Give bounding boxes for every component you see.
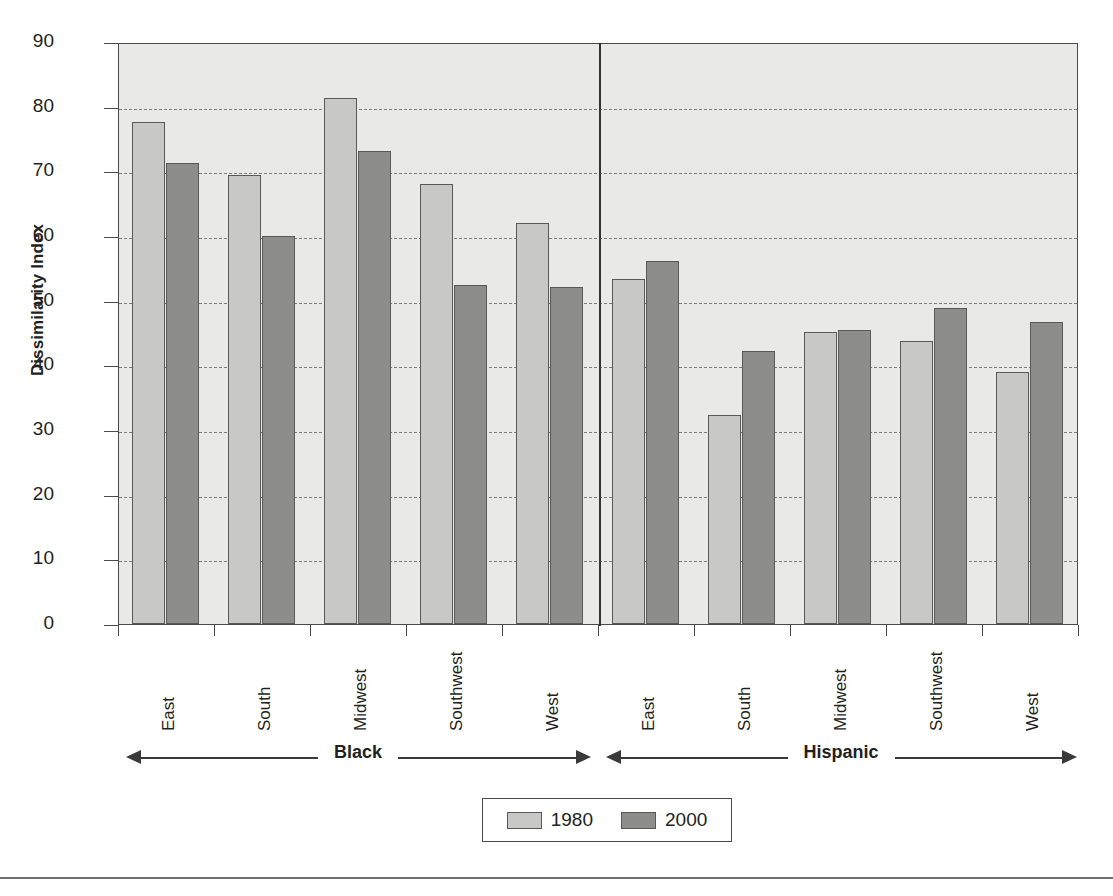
legend-item-2000[interactable]: 2000 [621,809,707,831]
y-tick-label-80: 80 [14,95,54,117]
bar-2000-South-black[interactable] [262,236,295,624]
y-tick-label-0: 0 [14,612,54,634]
arrow-right-hispanic-icon [1062,750,1077,764]
bar-1980-West-hispanic[interactable] [996,372,1029,624]
arrow-line-left-black [140,757,318,759]
bar-1980-Midwest-hispanic[interactable] [804,332,837,624]
legend-item-1980[interactable]: 1980 [507,809,593,831]
legend-label-2000: 2000 [665,809,707,831]
x-tick-mark-10 [1078,625,1079,636]
y-tick-mark-20 [104,496,118,497]
group-separator-line [599,43,601,626]
y-tick-label-90: 90 [14,30,54,52]
y-tick-mark-80 [104,108,118,109]
bar-2000-Midwest-hispanic[interactable] [838,330,871,624]
y-tick-mark-60 [104,237,118,238]
chart-legend: 1980 2000 [482,798,732,842]
x-tick-mark-8 [886,625,887,636]
y-tick-label-20: 20 [14,483,54,505]
x-tick-mark-6 [694,625,695,636]
x-label-hispanic-west: West [1023,693,1043,731]
x-label-black-southwest: Southwest [447,652,467,731]
chart-figure: Dissimilarity Index 0102030405060708090 … [0,0,1113,896]
gridline-80 [119,109,1077,110]
arrow-left-hispanic-icon [606,750,621,764]
arrow-left-black-icon [126,750,141,764]
y-tick-label-60: 60 [14,224,54,246]
bar-2000-East-black[interactable] [166,163,199,624]
y-tick-mark-40 [104,366,118,367]
arrow-line-left-hispanic [620,757,788,759]
gridline-70 [119,173,1077,174]
arrow-right-black-icon [576,750,591,764]
y-tick-mark-90 [104,43,118,44]
x-label-black-west: West [543,693,563,731]
x-label-hispanic-southwest: Southwest [927,652,947,731]
y-tick-label-70: 70 [14,159,54,181]
x-tick-mark-3 [406,625,407,636]
bar-2000-East-hispanic[interactable] [646,261,679,624]
x-label-hispanic-south: South [735,687,755,731]
x-tick-mark-0 [118,625,119,636]
y-tick-mark-10 [104,560,118,561]
legend-label-1980: 1980 [551,809,593,831]
plot-area [118,43,1078,625]
x-tick-mark-2 [310,625,311,636]
x-label-hispanic-east: East [639,697,659,731]
bar-1980-South-black[interactable] [228,175,261,624]
bar-2000-Southwest-hispanic[interactable] [934,308,967,624]
y-tick-mark-30 [104,431,118,432]
y-tick-label-40: 40 [14,353,54,375]
arrow-line-right-black [398,757,576,759]
bar-1980-Southwest-black[interactable] [420,184,453,624]
x-tick-mark-7 [790,625,791,636]
x-tick-mark-5 [598,625,599,636]
x-label-black-midwest: Midwest [351,669,371,731]
bar-1980-Midwest-black[interactable] [324,98,357,624]
bar-2000-Southwest-black[interactable] [454,285,487,624]
y-tick-mark-0 [104,625,118,626]
x-label-black-south: South [255,687,275,731]
y-tick-label-10: 10 [14,547,54,569]
y-tick-mark-50 [104,302,118,303]
x-tick-mark-1 [214,625,215,636]
bar-1980-South-hispanic[interactable] [708,415,741,624]
y-tick-mark-70 [104,172,118,173]
y-tick-label-30: 30 [14,418,54,440]
x-tick-mark-4 [502,625,503,636]
bar-1980-East-hispanic[interactable] [612,279,645,624]
bar-2000-West-black[interactable] [550,287,583,624]
x-label-hispanic-midwest: Midwest [831,669,851,731]
bar-2000-Midwest-black[interactable] [358,151,391,624]
legend-swatch-2000 [621,812,656,829]
legend-swatch-1980 [507,812,542,829]
y-tick-label-50: 50 [14,289,54,311]
group-label-black: Black [334,742,382,763]
bar-2000-South-hispanic[interactable] [742,351,775,624]
x-label-black-east: East [159,697,179,731]
bar-1980-Southwest-hispanic[interactable] [900,341,933,624]
bar-1980-West-black[interactable] [516,223,549,624]
x-tick-mark-9 [982,625,983,636]
bar-1980-East-black[interactable] [132,122,165,624]
bar-2000-West-hispanic[interactable] [1030,322,1063,624]
arrow-line-right-hispanic [895,757,1063,759]
bottom-divider [0,877,1113,879]
group-label-hispanic: Hispanic [804,742,879,763]
